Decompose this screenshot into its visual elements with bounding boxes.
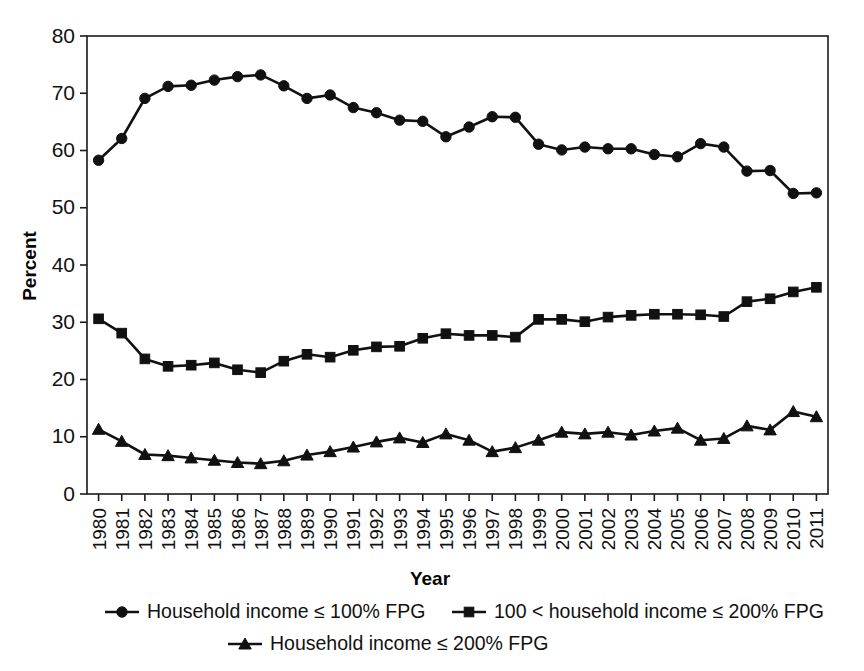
data-point-marker (117, 328, 127, 338)
data-point-marker (186, 360, 196, 370)
data-point-marker (302, 93, 312, 103)
data-point-marker (626, 144, 636, 154)
data-point-marker (186, 80, 196, 90)
x-tick-label: 2000 (552, 508, 573, 550)
y-tick-label: 70 (52, 81, 75, 104)
x-axis-title: Year (410, 568, 451, 589)
x-tick-label: 1998 (505, 508, 526, 550)
data-point-marker (418, 116, 428, 126)
data-point-marker (464, 122, 474, 132)
legend-item-1: Household income ≤ 100% FPG (105, 600, 425, 622)
data-point-marker (255, 70, 265, 80)
data-point-marker (811, 188, 821, 198)
data-point-marker (348, 346, 358, 356)
data-point-marker (673, 309, 683, 319)
y-tick-label: 30 (52, 310, 75, 333)
data-point-marker (650, 309, 660, 319)
x-tick-label: 1993 (390, 508, 411, 550)
data-point-marker (117, 607, 127, 617)
data-point-marker (441, 329, 451, 339)
x-tick-label: 1984 (181, 508, 202, 551)
x-tick-label: 2007 (714, 508, 735, 550)
x-tick-label: 2010 (783, 508, 804, 550)
data-point-marker (742, 166, 752, 176)
x-tick-label: 2001 (575, 508, 596, 550)
data-point-marker (325, 90, 335, 100)
legend-label: Household income ≤ 100% FPG (147, 600, 425, 622)
y-tick-label: 0 (63, 482, 75, 505)
data-point-marker (765, 294, 775, 304)
y-tick-label: 60 (52, 138, 75, 161)
x-tick-label: 2006 (691, 508, 712, 550)
x-tick-label: 1989 (297, 508, 318, 550)
x-tick-label: 1982 (135, 508, 156, 550)
data-point-marker (232, 71, 242, 81)
data-point-marker (603, 312, 613, 322)
data-point-marker (533, 139, 543, 149)
data-point-marker (626, 311, 636, 321)
data-point-marker (210, 358, 220, 368)
x-tick-label: 1992 (366, 508, 387, 550)
x-tick-label: 1991 (343, 508, 364, 550)
data-point-marker (117, 133, 127, 143)
data-point-marker (209, 75, 219, 85)
y-tick-label: 10 (52, 424, 75, 447)
x-tick-label: 2005 (667, 508, 688, 550)
chart-figure: 01020304050607080 1980198119821983198419… (0, 0, 864, 671)
data-point-marker (302, 350, 312, 360)
data-point-marker (788, 287, 798, 297)
data-point-marker (649, 149, 659, 159)
data-point-marker (140, 93, 150, 103)
x-tick-label: 1987 (251, 508, 272, 550)
legend-label: 100 < household income ≤ 200% FPG (494, 600, 824, 622)
data-point-marker (742, 297, 752, 307)
x-tick-label: 2002 (598, 508, 619, 550)
data-point-marker (163, 81, 173, 91)
data-point-marker (511, 332, 521, 342)
data-point-marker (812, 283, 822, 293)
data-point-marker (163, 362, 173, 372)
x-tick-label: 1985 (204, 508, 225, 550)
y-tick-label: 80 (52, 24, 75, 47)
x-tick-label: 2011 (806, 508, 827, 549)
data-point-marker (695, 138, 705, 148)
x-tick-label: 1988 (274, 508, 295, 550)
x-tick-label: 2009 (760, 508, 781, 550)
x-tick-label: 1999 (529, 508, 550, 550)
x-tick-label: 2004 (644, 508, 665, 551)
data-point-marker (233, 365, 243, 375)
data-point-marker (672, 152, 682, 162)
data-point-marker (372, 342, 382, 352)
data-point-marker (580, 317, 590, 327)
data-point-marker (256, 368, 266, 378)
data-point-marker (418, 333, 428, 343)
y-tick-label: 20 (52, 367, 75, 390)
x-tick-label: 1990 (320, 508, 341, 550)
y-tick-label: 50 (52, 195, 75, 218)
data-point-marker (279, 81, 289, 91)
data-point-marker (348, 102, 358, 112)
x-tick-label: 1986 (228, 508, 249, 550)
data-point-marker (94, 314, 104, 324)
data-point-marker (395, 341, 405, 351)
data-point-marker (93, 155, 103, 165)
data-point-marker (279, 356, 289, 366)
data-point-marker (510, 112, 520, 122)
data-point-marker (394, 115, 404, 125)
x-tick-label: 1996 (459, 508, 480, 550)
data-point-marker (719, 142, 729, 152)
y-axis-title: Percent (19, 230, 40, 300)
data-point-marker (603, 144, 613, 154)
data-point-marker (580, 142, 590, 152)
legend-label: Household income ≤ 200% FPG (270, 632, 548, 654)
legend-item-3: Household income ≤ 200% FPG (228, 632, 548, 654)
data-point-marker (765, 165, 775, 175)
legend-item-2: 100 < household income ≤ 200% FPG (452, 600, 824, 622)
data-point-marker (534, 315, 544, 325)
data-point-marker (464, 607, 474, 617)
x-tick-label: 1983 (158, 508, 179, 550)
data-point-marker (371, 108, 381, 118)
data-point-marker (719, 312, 729, 322)
data-point-marker (557, 145, 567, 155)
data-point-marker (140, 354, 150, 364)
